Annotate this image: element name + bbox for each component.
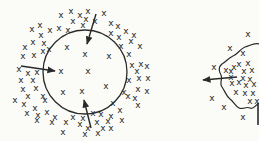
x-marker: x [40, 46, 46, 56]
x-marker: x [29, 24, 35, 34]
x-marker: x [144, 86, 150, 96]
x-marker: x [58, 66, 64, 76]
x-marker: x [101, 8, 107, 18]
x-marker: x [77, 119, 83, 129]
x-marker: x [136, 73, 142, 83]
x-marker: x [117, 105, 123, 115]
x-marker: x [37, 20, 43, 30]
x-marker: x [60, 127, 66, 137]
x-marker: x [79, 86, 85, 96]
right-panel-blob-diagram: xxxxxxxxxxxxxxxxxxxx xxxxxx [203, 29, 259, 125]
x-marker: x [135, 100, 141, 110]
x-marker: x [70, 112, 76, 122]
x-marker: x [24, 108, 30, 118]
x-marker: x [44, 107, 50, 117]
x-marker: x [70, 16, 76, 26]
x-marker: x [103, 81, 109, 91]
x-marker: x [108, 18, 114, 28]
x-marker: x [30, 37, 36, 47]
x-marker: x [31, 50, 37, 60]
x-marker: x [63, 117, 69, 127]
x-marker: x [123, 26, 129, 36]
outside-markers: xxxxxxxxxxxxxxxxxxxxxxxxxxxxxxxxxxxxxxxx… [12, 6, 151, 139]
x-marker: x [82, 129, 88, 139]
x-marker: x [240, 112, 246, 122]
x-marker: x [115, 21, 121, 31]
x-marker: x [245, 29, 251, 39]
x-marker: x [49, 117, 55, 127]
blob-boundary [219, 43, 259, 108]
x-marker: x [227, 43, 233, 53]
x-marker: x [144, 61, 150, 71]
x-marker: x [247, 96, 253, 106]
x-marker: x [58, 10, 64, 20]
x-marker: x [100, 123, 106, 133]
x-marker: x [64, 42, 70, 52]
x-marker: x [126, 49, 132, 59]
x-marker: x [65, 25, 71, 35]
x-marker: x [233, 87, 239, 97]
x-marker: x [68, 6, 74, 16]
left-panel-circle-diagram: xxxxxxxx xxxxxxxxxxxxxxxxxxxxxxxxxxxxxxx… [12, 6, 151, 139]
x-marker: x [128, 36, 134, 46]
x-marker: x [108, 123, 114, 133]
x-marker: x [42, 95, 48, 105]
x-marker: x [46, 44, 52, 54]
x-marker: x [106, 51, 112, 61]
x-marker: x [85, 66, 91, 76]
x-marker: x [221, 102, 227, 112]
x-marker: x [108, 28, 114, 38]
x-marker: x [145, 73, 151, 83]
x-marker: x [12, 95, 18, 105]
x-marker: x [82, 49, 88, 59]
x-marker: x [95, 128, 101, 138]
x-marker: x [20, 51, 26, 61]
x-marker: x [56, 23, 62, 33]
x-marker: x [33, 83, 39, 93]
x-marker: x [240, 48, 246, 58]
x-marker: x [137, 41, 143, 51]
x-marker: x [47, 25, 53, 35]
inside-markers: xxxxxxxx [58, 42, 112, 97]
x-marker: x [118, 41, 124, 51]
x-marker: x [34, 115, 40, 125]
x-marker: x [236, 77, 242, 87]
x-marker: x [125, 91, 131, 101]
x-marker: x [211, 62, 217, 72]
diagram-canvas: xxxxxxxx xxxxxxxxxxxxxxxxxxxxxxxxxxxxxxx… [0, 0, 259, 141]
x-marker: x [209, 93, 215, 103]
x-marker: x [119, 115, 125, 125]
x-marker: x [83, 14, 89, 24]
x-marker: x [110, 98, 116, 108]
x-marker: x [60, 87, 66, 97]
x-marker: x [126, 75, 132, 85]
